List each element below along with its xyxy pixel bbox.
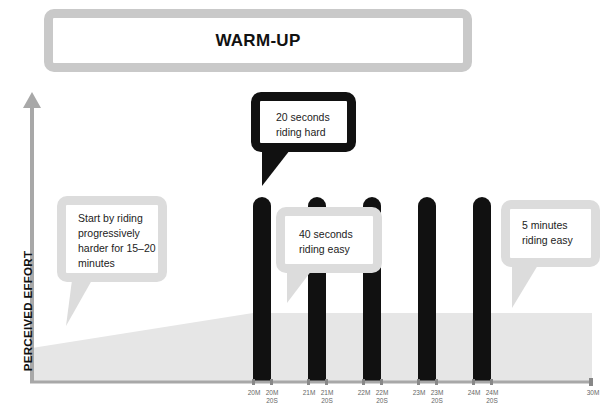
easy5-bubble-tail xyxy=(512,265,538,308)
y-axis-arrow-icon xyxy=(23,92,41,108)
x-tick-label: 24M20S xyxy=(480,389,504,405)
y-axis-label: PERCEIVED EFFORT xyxy=(22,231,34,391)
x-tick-label: 22M20S xyxy=(370,389,394,405)
easy40-callout-text: 40 seconds riding easy xyxy=(299,227,373,257)
hard-callout: 20 seconds riding hard xyxy=(251,92,356,152)
x-tick-label: 30M xyxy=(581,389,603,397)
warmup-bubble-tail xyxy=(66,280,92,326)
x-tick-label: 20M20S xyxy=(260,389,284,405)
hard-callout-text: 20 seconds riding hard xyxy=(276,110,346,140)
x-tick-label: 23M20S xyxy=(425,389,449,405)
warmup-callout-text: Start by riding progressively harder for… xyxy=(78,211,162,271)
easy5-callout: 5 minutes riding easy xyxy=(501,200,600,267)
warmup-callout: Start by riding progressively harder for… xyxy=(57,196,167,282)
easy5-callout-text: 5 minutes riding easy xyxy=(522,218,592,248)
easy40-callout: 40 seconds riding easy xyxy=(276,207,382,273)
hard-bubble-tail xyxy=(262,150,290,186)
x-tick-label: 21M20S xyxy=(315,389,339,405)
